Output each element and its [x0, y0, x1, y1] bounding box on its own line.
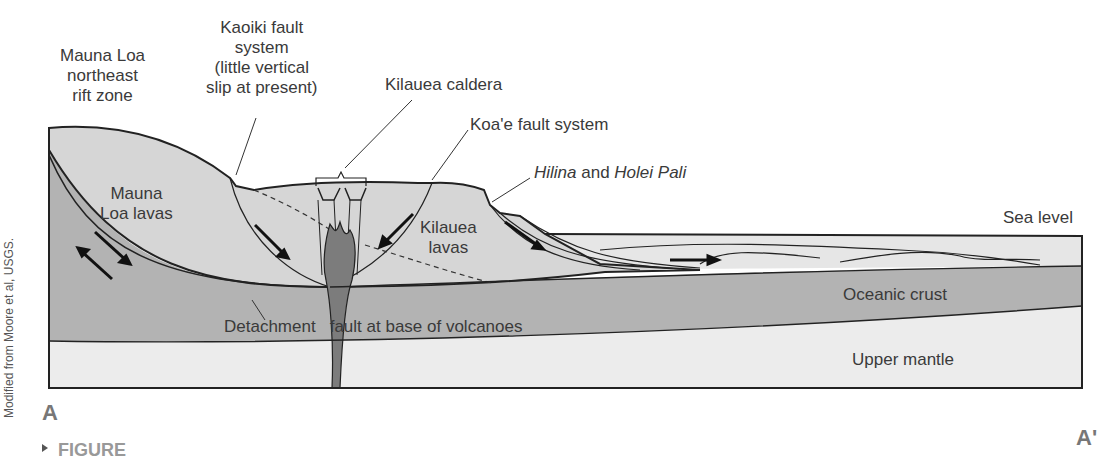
text-line: slip at present) [206, 78, 318, 98]
text-line: Mauna Loa [60, 46, 145, 66]
text-line: lavas [420, 238, 477, 258]
label-oceanic-crust: Oceanic crust [843, 285, 947, 305]
text-line: Kaoiki fault [206, 18, 318, 38]
text-line: northeast [60, 66, 145, 86]
label-koae: Koa'e fault system [470, 115, 608, 135]
label-mauna-loa-lavas: Mauna Loa lavas [100, 184, 173, 224]
text-part: Hilina [534, 163, 577, 182]
credit-text: Modified from Moore et al, USGS. [2, 238, 16, 418]
text-line: rift zone [60, 86, 145, 106]
label-sea-level: Sea level [1003, 208, 1073, 228]
text-line: Loa lavas [100, 204, 173, 224]
text-line: Mauna [100, 184, 173, 204]
text-part: Holei Pali [614, 163, 686, 182]
section-end-label: A' [1076, 425, 1097, 451]
label-hilina-holei: Hilina and Holei Pali [534, 163, 686, 183]
section-start-label: A [42, 400, 58, 426]
text-part: fault at base of volcanoes [330, 317, 523, 336]
label-upper-mantle: Upper mantle [852, 350, 954, 370]
text-line: system [206, 38, 318, 58]
label-detachment: Detachmentfault at base of volcanoes [224, 317, 522, 337]
text-line: (little vertical [206, 58, 318, 78]
text-part: Detachment [224, 317, 316, 336]
text-part: and [577, 163, 615, 182]
label-kilauea-lavas: Kilauea lavas [420, 218, 477, 258]
label-kaoiki: Kaoiki fault system (little vertical sli… [206, 18, 318, 98]
figure-caption: FIGURE [58, 440, 126, 460]
label-kilauea-caldera: Kilauea caldera [385, 75, 502, 95]
label-mauna-loa-rift: Mauna Loa northeast rift zone [60, 46, 145, 106]
text-line: Kilauea [420, 218, 477, 238]
